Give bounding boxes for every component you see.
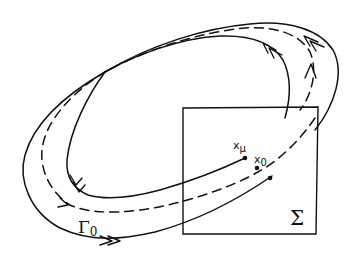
label-x-mu: xμ <box>233 139 247 154</box>
label-gamma-0: Γ0 <box>78 217 97 239</box>
point-outer <box>268 176 273 181</box>
point-x-0 <box>255 166 260 171</box>
poincare-diagram: xμ x0 Γ0 Σ <box>0 0 353 257</box>
label-sigma: Σ <box>290 206 304 230</box>
label-x-0: x0 <box>254 153 267 168</box>
point-x-mu <box>243 156 248 161</box>
